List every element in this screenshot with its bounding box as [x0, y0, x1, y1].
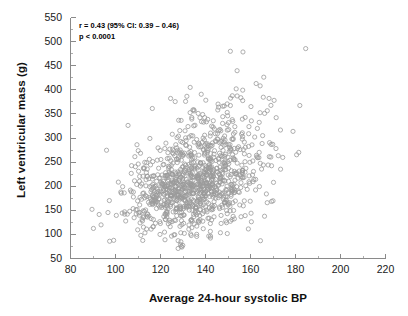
- data-point: [265, 109, 269, 113]
- data-point: [104, 148, 108, 152]
- data-point: [208, 134, 212, 138]
- data-point: [276, 154, 280, 158]
- data-point: [219, 221, 223, 225]
- data-point: [241, 88, 245, 92]
- data-point: [121, 185, 125, 189]
- data-point: [97, 212, 101, 216]
- data-point: [170, 132, 174, 136]
- data-point: [139, 233, 143, 237]
- data-point: [278, 167, 282, 171]
- data-point: [258, 84, 262, 88]
- data-point: [179, 158, 183, 162]
- data-point: [262, 214, 266, 218]
- stats-annotation: r = 0.43 (95% CI: 0.39 – 0.46) p < 0.000…: [79, 21, 179, 42]
- data-points: [90, 46, 308, 250]
- data-point: [244, 166, 248, 170]
- data-point: [239, 215, 243, 219]
- data-point: [208, 229, 212, 233]
- data-point: [138, 203, 142, 207]
- data-point: [253, 135, 257, 139]
- data-point: [221, 115, 225, 119]
- data-point: [235, 161, 239, 165]
- data-point: [291, 129, 295, 133]
- data-point: [163, 146, 167, 150]
- data-point: [162, 230, 166, 234]
- x-tick-label-100: 100: [96, 263, 136, 275]
- data-point: [114, 213, 118, 217]
- data-point: [188, 85, 192, 89]
- data-point: [259, 167, 263, 171]
- data-point: [255, 126, 259, 130]
- data-point: [91, 226, 95, 230]
- data-point: [235, 185, 239, 189]
- data-point: [257, 150, 261, 154]
- data-point: [187, 223, 191, 227]
- x-tick-label-80: 80: [51, 263, 91, 275]
- data-point: [229, 169, 233, 173]
- data-point: [199, 92, 203, 96]
- data-point: [262, 75, 266, 79]
- data-point: [274, 146, 278, 150]
- data-point: [264, 192, 268, 196]
- data-point: [196, 111, 200, 115]
- y-tick-label-250: 250: [30, 155, 62, 167]
- data-point: [178, 128, 182, 132]
- data-point: [133, 155, 137, 159]
- data-point: [218, 231, 222, 235]
- data-point: [281, 155, 285, 159]
- y-tick-label-400: 400: [30, 83, 62, 95]
- data-point: [258, 239, 262, 243]
- data-point: [267, 96, 271, 100]
- data-point: [271, 180, 275, 184]
- y-tick-label-450: 450: [30, 59, 62, 71]
- data-point: [278, 128, 282, 132]
- data-point: [246, 227, 250, 231]
- data-point: [304, 46, 308, 50]
- data-point: [240, 137, 244, 141]
- data-point: [265, 201, 269, 205]
- data-point: [233, 125, 237, 129]
- data-point: [133, 165, 137, 169]
- y-tick-label-100: 100: [30, 227, 62, 239]
- data-point: [257, 184, 261, 188]
- x-tick-label-140: 140: [186, 263, 226, 275]
- data-point: [126, 123, 130, 127]
- data-point: [106, 210, 110, 214]
- data-point: [135, 143, 139, 147]
- annotation-line-pvalue: p < 0.0001: [79, 32, 179, 43]
- data-point: [186, 124, 190, 128]
- data-point: [225, 231, 229, 235]
- data-point: [235, 69, 239, 73]
- data-point: [260, 141, 264, 145]
- annotation-line-correlation: r = 0.43 (95% CI: 0.39 – 0.46): [79, 21, 179, 32]
- data-point: [243, 214, 247, 218]
- data-point: [153, 221, 157, 225]
- data-point: [163, 238, 167, 242]
- y-tick-label-200: 200: [30, 179, 62, 191]
- data-point: [211, 119, 215, 123]
- data-point: [192, 140, 196, 144]
- data-point: [234, 87, 238, 91]
- data-point: [179, 240, 183, 244]
- data-point: [136, 149, 140, 153]
- y-tick-label-150: 150: [30, 203, 62, 215]
- x-tick-label-200: 200: [321, 263, 361, 275]
- y-tick-label-300: 300: [30, 131, 62, 143]
- data-point: [247, 132, 251, 136]
- data-point: [212, 215, 216, 219]
- data-point: [239, 185, 243, 189]
- data-point: [107, 198, 111, 202]
- data-point: [171, 210, 175, 214]
- data-point: [131, 195, 135, 199]
- data-point: [269, 103, 273, 107]
- data-point: [247, 153, 251, 157]
- data-point: [155, 179, 159, 183]
- data-point: [124, 219, 128, 223]
- data-point: [263, 111, 267, 115]
- data-point: [221, 148, 225, 152]
- data-point: [183, 129, 187, 133]
- data-point: [157, 166, 161, 170]
- data-point: [219, 213, 223, 217]
- data-point: [244, 184, 248, 188]
- y-tick-label-500: 500: [30, 35, 62, 47]
